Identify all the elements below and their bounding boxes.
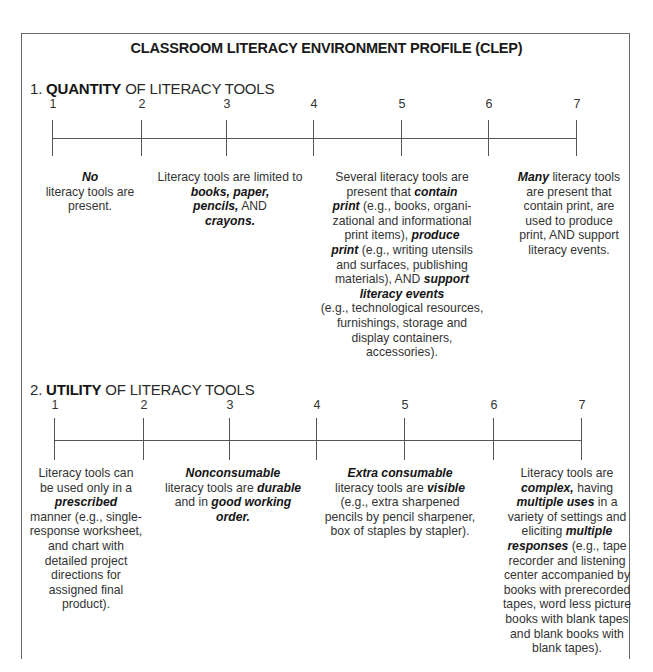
scale-tick	[52, 120, 53, 156]
description-line: accessories).	[307, 345, 497, 360]
scale-point-label: 5	[402, 398, 409, 412]
section-number: 2.	[30, 381, 42, 398]
document-title: CLASSROOM LITERACY ENVIRONMENT PROFILE (…	[0, 40, 653, 56]
scale-tick	[226, 120, 227, 156]
description-line: books with prerecorded	[497, 583, 637, 598]
description-line: crayons.	[145, 214, 315, 229]
emphasis: Extra consumable	[348, 466, 453, 480]
scale-tick	[404, 418, 405, 460]
scale-tick	[143, 418, 144, 460]
scale-point-label: 6	[491, 398, 498, 412]
description-line: print, AND support	[504, 228, 634, 243]
anchor-description: Literacy tools canbe used only in apresc…	[21, 466, 151, 612]
anchor-description: Nonconsumableliteracy tools are durablea…	[158, 466, 308, 524]
description-line: prescribed	[21, 495, 151, 510]
scale-tick	[581, 418, 582, 460]
description-line: Literacy tools are limited to	[145, 170, 315, 185]
emphasis: complex,	[521, 481, 574, 495]
emphasis: Many	[518, 170, 549, 184]
anchor-description: Literacy tools are limited tobooks, pape…	[145, 170, 315, 228]
emphasis: multiple uses	[517, 495, 595, 509]
scale-tick	[576, 120, 577, 156]
description-line: assigned final	[21, 583, 151, 598]
anchor-description: No literacy tools arepresent.	[15, 170, 165, 214]
description-line: No	[15, 170, 165, 185]
emphasis: literacy events	[360, 287, 445, 301]
description-line: response worksheet,	[21, 524, 151, 539]
scale-tick	[401, 120, 402, 156]
section-keyword: QUANTITY	[46, 80, 121, 97]
description-line: and chart with	[21, 539, 151, 554]
section-heading-rest: OF LITERACY TOOLS	[121, 80, 274, 97]
emphasis: durable	[257, 481, 301, 495]
description-line: print (e.g., books, organi-	[307, 199, 497, 214]
scale-tick	[141, 120, 142, 156]
emphasis: multiple	[566, 524, 613, 538]
description-line: manner (e.g., single-	[21, 510, 151, 525]
scale-point-label: 7	[579, 398, 586, 412]
scale-axis-line	[54, 440, 581, 441]
description-line: and in good working	[158, 495, 308, 510]
description-line: tapes, word less picture	[497, 597, 637, 612]
scale-point-label: 4	[311, 97, 318, 111]
description-line: Literacy tools are	[497, 466, 637, 481]
emphasis: good working	[211, 495, 291, 509]
scale-tick	[493, 418, 494, 460]
scale-tick	[229, 418, 230, 460]
scale-point-label: 5	[399, 97, 406, 111]
emphasis: books, paper,	[191, 185, 270, 199]
description-line: literacy tools are durable	[158, 481, 308, 496]
section-heading-rest: OF LITERACY TOOLS	[101, 381, 254, 398]
emphasis: Nonconsumable	[186, 466, 281, 480]
description-line: and surfaces, publishing	[307, 258, 497, 273]
description-line: Several literacy tools are	[307, 170, 497, 185]
scale-point-label: 1	[52, 398, 59, 412]
scale-tick	[313, 120, 314, 156]
scale-point-label: 6	[486, 97, 493, 111]
description-line: be used only in a	[21, 481, 151, 496]
description-line: box of staples by stapler).	[313, 524, 488, 539]
description-line: detailed project	[21, 554, 151, 569]
description-line: product).	[21, 597, 151, 612]
emphasis: visible	[427, 481, 465, 495]
description-line: furnishings, storage and	[307, 316, 497, 331]
scale-tick	[488, 120, 489, 156]
description-line: present that contain	[307, 185, 497, 200]
description-line: responses (e.g., tape	[497, 539, 637, 554]
section-keyword: UTILITY	[46, 381, 101, 398]
anchor-description: Literacy tools arecomplex, havingmultipl…	[497, 466, 637, 656]
description-line: Literacy tools can	[21, 466, 151, 481]
description-line: display containers,	[307, 331, 497, 346]
emphasis: order.	[216, 510, 250, 524]
description-line: are present that	[504, 185, 634, 200]
emphasis: contain	[414, 185, 457, 199]
description-line: zational and informational	[307, 214, 497, 229]
emphasis: prescribed	[55, 495, 117, 509]
scale-point-label: 2	[141, 398, 148, 412]
description-line: books, paper,	[145, 185, 315, 200]
emphasis: support	[424, 272, 469, 286]
description-line: eliciting multiple	[497, 524, 637, 539]
description-line: Extra consumable	[313, 466, 488, 481]
description-line: and blank books with	[497, 627, 637, 642]
emphasis: responses	[507, 539, 568, 553]
description-line: print items), produce	[307, 228, 497, 243]
description-line: complex, having	[497, 481, 637, 496]
emphasis: pencils,	[193, 199, 238, 213]
description-line: multiple uses in a	[497, 495, 637, 510]
description-line: literacy events.	[504, 243, 634, 258]
description-line: print (e.g., writing utensils	[307, 243, 497, 258]
scale-point-label: 7	[574, 97, 581, 111]
description-line: Nonconsumable	[158, 466, 308, 481]
description-line: pencils by pencil sharpener,	[313, 510, 488, 525]
emphasis: print	[333, 199, 360, 213]
anchor-description: Extra consumableliteracy tools are visib…	[313, 466, 488, 539]
scale-tick	[316, 418, 317, 460]
anchor-description: Many literacy toolsare present thatconta…	[504, 170, 634, 258]
description-line: blank tapes).	[497, 641, 637, 656]
description-line: order.	[158, 510, 308, 525]
emphasis: crayons.	[205, 214, 255, 228]
description-line: literacy events	[307, 287, 497, 302]
section-heading-utility: 2. UTILITY OF LITERACY TOOLS	[30, 381, 254, 398]
description-line: Many literacy tools	[504, 170, 634, 185]
